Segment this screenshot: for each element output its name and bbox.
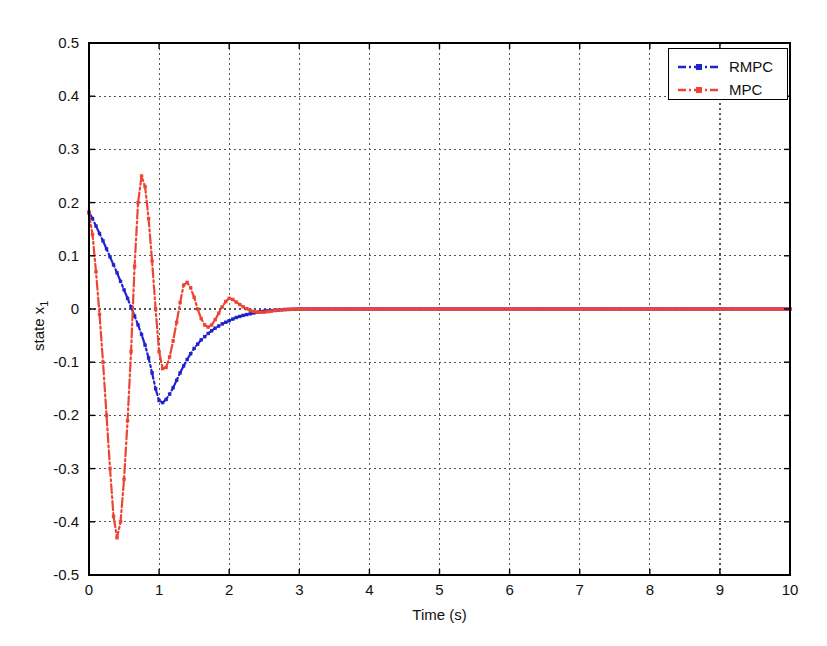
y-tick-label: 0 bbox=[31, 300, 79, 317]
legend-item-rmpc: RMPC bbox=[677, 58, 773, 75]
legend-item-mpc: MPC bbox=[677, 81, 762, 98]
x-tick-label: 4 bbox=[344, 581, 394, 598]
y-tick-label: 0.4 bbox=[31, 87, 79, 104]
x-tick-label: 10 bbox=[765, 581, 815, 598]
y-tick-label: 0.1 bbox=[31, 247, 79, 264]
x-tick-label: 7 bbox=[555, 581, 605, 598]
legend-swatch-rmpc bbox=[677, 60, 721, 74]
legend-label: RMPC bbox=[729, 58, 773, 75]
y-tick-label: -0.4 bbox=[31, 513, 79, 530]
x-tick-label: 3 bbox=[274, 581, 324, 598]
y-tick-label: 0.2 bbox=[31, 194, 79, 211]
y-tick-label: -0.3 bbox=[31, 460, 79, 477]
chart-legend: RMPCMPC bbox=[668, 48, 788, 100]
x-tick-label: 0 bbox=[64, 581, 114, 598]
y-tick-label: -0.1 bbox=[31, 353, 79, 370]
y-tick-label: 0.3 bbox=[31, 140, 79, 157]
figure-canvas: state x1 Time (s) -0.5-0.4-0.3-0.2-0.100… bbox=[0, 0, 827, 646]
x-tick-label: 9 bbox=[695, 581, 745, 598]
x-tick-label: 8 bbox=[625, 581, 675, 598]
x-axis-label: Time (s) bbox=[340, 606, 540, 623]
legend-label: MPC bbox=[729, 81, 762, 98]
y-tick-label: -0.2 bbox=[31, 406, 79, 423]
x-tick-label: 5 bbox=[415, 581, 465, 598]
legend-swatch-mpc bbox=[677, 83, 721, 97]
x-tick-label: 1 bbox=[134, 581, 184, 598]
x-tick-label: 6 bbox=[485, 581, 535, 598]
x-tick-label: 2 bbox=[204, 581, 254, 598]
y-tick-label: 0.5 bbox=[31, 34, 79, 51]
